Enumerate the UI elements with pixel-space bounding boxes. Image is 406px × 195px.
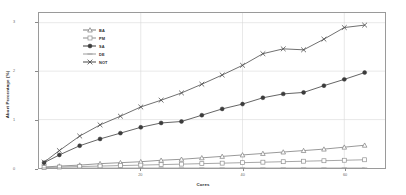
data-point — [281, 160, 285, 164]
y-axis-title: Abort Percentage (%) — [5, 55, 10, 135]
data-point — [363, 158, 367, 162]
data-point — [342, 158, 346, 162]
data-point — [220, 73, 225, 78]
y-tick-label: 3 — [13, 20, 15, 24]
data-point — [179, 157, 184, 161]
legend-label: NOT — [99, 60, 108, 65]
legend-marker-triangle-icon — [83, 27, 96, 33]
data-point — [200, 113, 204, 117]
plot-area: BAPMSADENOT — [38, 12, 386, 169]
data-point — [301, 148, 306, 152]
chart-legend: BAPMSADENOT — [81, 26, 110, 66]
x-tick-mark — [345, 168, 346, 171]
legend-item-ba[interactable]: BA — [83, 27, 108, 33]
y-tick-mark — [35, 120, 38, 121]
data-point — [241, 102, 245, 106]
data-point — [240, 153, 245, 157]
data-point — [220, 107, 224, 111]
data-point — [139, 125, 143, 129]
data-point — [78, 144, 82, 148]
data-point — [281, 150, 286, 154]
data-point — [179, 120, 183, 124]
x-tick-mark — [140, 168, 141, 171]
data-point — [179, 91, 184, 96]
y-tick-mark — [35, 22, 38, 23]
data-point — [362, 143, 367, 147]
data-point — [261, 151, 266, 155]
data-point — [200, 156, 205, 160]
legend-label: DE — [99, 52, 105, 57]
data-point — [77, 134, 82, 139]
data-point — [98, 137, 102, 141]
data-point — [42, 166, 46, 170]
x-tick-label: 60 — [343, 173, 347, 177]
data-point — [118, 114, 123, 119]
data-point — [87, 60, 92, 65]
data-point — [179, 162, 183, 166]
data-point — [159, 158, 164, 162]
legend-marker-square-icon — [83, 35, 96, 41]
y-tick-label: 1 — [13, 118, 15, 122]
legend-marker-circle-icon — [83, 43, 96, 49]
data-point — [241, 161, 245, 165]
legend-item-sa[interactable]: SA — [83, 43, 108, 49]
data-point — [199, 82, 204, 87]
y-tick-mark — [35, 169, 38, 170]
data-point — [98, 123, 103, 128]
legend-label: BA — [99, 28, 105, 33]
data-point — [220, 161, 224, 165]
data-point — [322, 37, 327, 42]
data-point — [118, 131, 122, 135]
data-point — [159, 121, 163, 125]
y-tick-mark — [35, 71, 38, 72]
y-tick-label: 2 — [13, 69, 15, 73]
data-point — [342, 145, 347, 149]
legend-marker-dash-icon — [83, 51, 96, 57]
x-tick-mark — [243, 168, 244, 171]
chart-figure: BAPMSADENOT 2040600123 Cores Abort Perce… — [0, 0, 406, 195]
data-point — [57, 153, 61, 157]
data-point — [302, 90, 306, 94]
data-point — [220, 154, 225, 158]
data-point — [57, 148, 62, 153]
data-point — [139, 163, 143, 167]
data-point — [240, 63, 245, 68]
y-tick-label: 0 — [13, 167, 15, 171]
data-point — [88, 36, 92, 40]
legend-label: PM — [99, 36, 105, 41]
data-point — [200, 162, 204, 166]
data-point — [281, 92, 285, 96]
legend-item-not[interactable]: NOT — [83, 59, 108, 65]
legend-label: SA — [99, 44, 105, 49]
data-point — [322, 159, 326, 163]
data-point — [159, 98, 164, 103]
data-point — [88, 44, 92, 48]
data-point — [159, 163, 163, 167]
legend-marker-cross-icon — [83, 59, 96, 65]
data-point — [98, 164, 102, 168]
data-point — [322, 84, 326, 88]
x-axis-title: Cores — [0, 182, 406, 187]
data-point — [322, 147, 327, 151]
data-point — [362, 23, 367, 28]
data-point — [342, 77, 346, 81]
x-tick-label: 20 — [138, 173, 142, 177]
legend-item-pm[interactable]: PM — [83, 35, 108, 41]
data-point — [281, 46, 286, 51]
data-point — [261, 96, 265, 100]
legend-item-de[interactable]: DE — [83, 51, 108, 57]
data-point — [302, 159, 306, 163]
data-point — [87, 28, 92, 32]
data-point — [301, 47, 306, 52]
data-point — [138, 105, 143, 110]
data-point — [261, 160, 265, 164]
x-tick-label: 40 — [241, 173, 245, 177]
data-point — [260, 51, 265, 56]
data-point — [118, 164, 122, 168]
data-point — [342, 25, 347, 30]
data-point — [363, 71, 367, 75]
